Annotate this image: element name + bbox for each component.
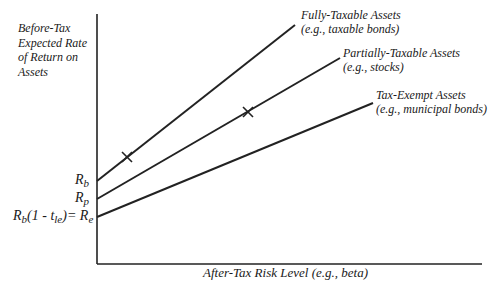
partially-taxable-example: (e.g., stocks) [343, 60, 460, 74]
x-marker-1 [122, 152, 132, 162]
x-marker-2 [243, 107, 253, 117]
re-intercept-label: Rb(1 - tle)= Re [13, 208, 93, 225]
partially-taxable-label: Partially-Taxable Assets (e.g., stocks) [343, 46, 460, 74]
fully-taxable-example: (e.g., taxable bonds) [301, 22, 401, 36]
partially-taxable-line [97, 58, 340, 199]
fully-taxable-label: Fully-Taxable Assets (e.g., taxable bond… [301, 8, 401, 36]
tax-exempt-label: Tax-Exempt Assets (e.g., municipal bonds… [376, 88, 487, 116]
tax-exempt-example: (e.g., municipal bonds) [376, 102, 487, 116]
tax-exempt-line [97, 103, 373, 217]
y-axis-label: Before-Tax Expected Rate of Return on As… [18, 21, 98, 79]
x-axis-label: After-Tax Risk Level (e.g., beta) [203, 266, 368, 280]
tax-exempt-name: Tax-Exempt Assets [376, 88, 487, 102]
rp-intercept-label: Rp [75, 190, 89, 207]
partially-taxable-name: Partially-Taxable Assets [343, 46, 460, 60]
rb-intercept-label: Rb [75, 172, 89, 189]
fully-taxable-name: Fully-Taxable Assets [301, 8, 401, 22]
